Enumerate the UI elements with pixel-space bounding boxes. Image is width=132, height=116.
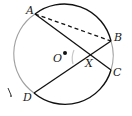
- label-C: C: [113, 66, 122, 79]
- stray-dot: [10, 95, 12, 97]
- center-point-O: [63, 51, 67, 55]
- chord-DB: [34, 41, 111, 93]
- label-O: O: [53, 52, 62, 65]
- angle-mark: [72, 50, 74, 64]
- label-B: B: [113, 31, 122, 44]
- label-D: D: [22, 91, 32, 104]
- label-X: X: [84, 57, 94, 70]
- circle-diagram: A B C D X O: [0, 0, 132, 116]
- label-A: A: [25, 4, 34, 17]
- stray-mark: [8, 88, 11, 95]
- arc-AD-left: [14, 14, 35, 93]
- arc-CD: [34, 70, 111, 104]
- chord-AB-dashed: [35, 14, 111, 41]
